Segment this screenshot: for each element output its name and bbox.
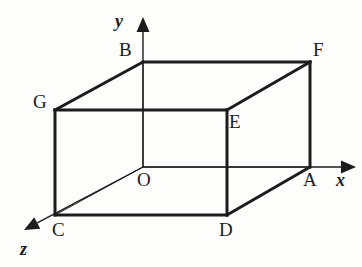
axis-arrowhead-group	[24, 17, 356, 230]
axis-label-y: y	[115, 12, 123, 31]
edge-D-A	[227, 167, 310, 215]
vertex-label-F: F	[313, 40, 324, 59]
vertex-label-C: C	[52, 220, 65, 239]
axis-arrowhead-z	[24, 217, 40, 230]
axis-label-z: z	[20, 240, 27, 259]
edge-G-B	[55, 62, 143, 110]
axis-label-x: x	[336, 171, 345, 190]
vertex-label-E: E	[229, 112, 241, 131]
visible-edge-group	[55, 62, 310, 215]
axis-arrowhead-y	[137, 17, 150, 32]
geometry-figure: OABCDEFGyxz	[0, 0, 362, 267]
edge-E-F	[227, 62, 310, 110]
vertex-label-G: G	[33, 92, 47, 111]
vertex-label-D: D	[219, 220, 233, 239]
vertex-label-B: B	[119, 40, 132, 59]
vertex-label-A: A	[303, 170, 317, 189]
vertex-label-O: O	[137, 170, 151, 189]
